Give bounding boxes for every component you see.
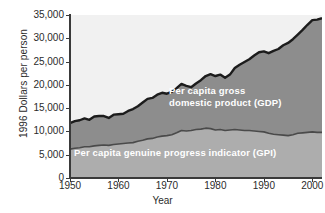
gdp-annotation-line2: domestic product (GDP) <box>169 97 282 109</box>
x-tick-label: 1950 <box>50 181 90 191</box>
gpi-annotation-line1: Per capita genuine progress indicator (G… <box>74 147 276 159</box>
gdp-annotation-line1: Per capita gross <box>169 85 282 97</box>
x-tick-label: 2000 <box>292 181 325 191</box>
x-axis-spine <box>69 177 322 179</box>
x-tick-label: 1980 <box>195 181 235 191</box>
gpi-annotation: Per capita genuine progress indicator (G… <box>74 147 276 159</box>
x-tick-label: 1970 <box>147 181 187 191</box>
y-axis-spine <box>69 14 71 179</box>
chart-figure: 1996 Dollars per person 05,00010,00015,0… <box>0 0 325 213</box>
x-tick-label: 1990 <box>244 181 284 191</box>
x-axis-label: Year <box>0 195 325 206</box>
gdp-annotation: Per capita gross domestic product (GDP) <box>169 85 282 109</box>
x-tick-label: 1960 <box>98 181 138 191</box>
